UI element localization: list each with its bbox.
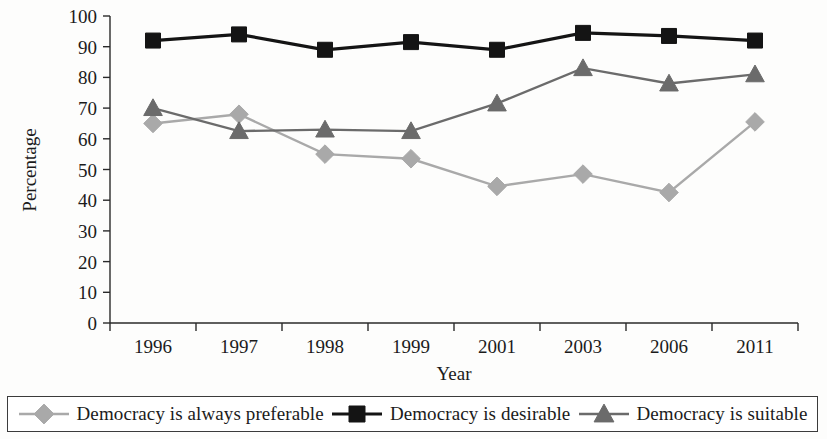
x-tick-label: 2003 (564, 336, 602, 357)
x-tick-label: 1996 (134, 336, 172, 357)
x-axis-tick-labels: 19961997199819992001200320062011 (134, 336, 774, 357)
line-chart-figure: 0102030405060708090100 19961997199819992… (0, 0, 827, 439)
y-axis-tick-marks (103, 16, 110, 323)
y-tick-label: 50 (78, 160, 97, 181)
series-1 (144, 105, 765, 202)
data-point-marker (230, 105, 249, 124)
data-point-marker (574, 59, 593, 76)
series-2 (146, 25, 763, 57)
x-axis-tick-marks (110, 323, 798, 331)
legend-entry-3[interactable]: Democracy is suitable (578, 403, 808, 425)
data-point-marker (144, 99, 163, 116)
x-tick-label: 1998 (306, 336, 344, 357)
data-series-group (144, 25, 765, 201)
legend-triangle-icon (578, 404, 630, 424)
legend-label: Democracy is suitable (637, 403, 808, 425)
y-axis-title: Percentage (19, 128, 40, 211)
data-point-marker (746, 65, 765, 82)
data-point-marker (748, 33, 763, 48)
y-tick-label: 60 (78, 129, 97, 150)
y-tick-label: 10 (78, 282, 97, 303)
data-point-marker (144, 114, 163, 133)
data-point-marker (488, 177, 507, 196)
data-point-marker (232, 27, 247, 42)
x-tick-label: 2001 (478, 336, 516, 357)
y-tick-label: 40 (78, 190, 97, 211)
legend-marker (349, 406, 365, 422)
series-line (153, 114, 755, 192)
legend-marker (34, 404, 54, 424)
data-point-marker (490, 42, 505, 57)
data-point-marker (318, 42, 333, 57)
chart-legend: Democracy is always preferableDemocracy … (7, 396, 818, 432)
y-tick-label: 30 (78, 221, 97, 242)
data-point-marker (146, 33, 161, 48)
series-line (153, 68, 755, 131)
data-point-marker (316, 145, 335, 164)
legend-label: Democracy is always preferable (77, 403, 324, 425)
legend-label: Democracy is desirable (390, 403, 571, 425)
x-axis-title: Year (436, 363, 472, 384)
y-tick-label: 90 (78, 37, 97, 58)
y-tick-label: 70 (78, 98, 97, 119)
data-point-marker (576, 25, 591, 40)
legend-entry-2[interactable]: Democracy is desirable (331, 403, 571, 425)
data-point-marker (662, 28, 677, 43)
x-tick-label: 1997 (220, 336, 258, 357)
y-tick-label: 100 (69, 6, 98, 27)
data-point-marker (488, 94, 507, 111)
y-tick-label: 0 (88, 313, 98, 334)
data-point-marker (402, 149, 421, 168)
legend-diamond-icon (18, 404, 70, 424)
plot-area: 0102030405060708090100 19961997199819992… (0, 0, 827, 392)
series-3 (144, 59, 765, 139)
x-tick-label: 2006 (650, 336, 688, 357)
data-point-marker (574, 165, 593, 184)
x-tick-label: 1999 (392, 336, 430, 357)
legend-square-icon (331, 404, 383, 424)
y-axis-tick-labels: 0102030405060708090100 (69, 6, 98, 334)
x-tick-label: 2011 (736, 336, 773, 357)
y-tick-label: 20 (78, 252, 97, 273)
data-point-marker (404, 35, 419, 50)
legend-entry-1[interactable]: Democracy is always preferable (18, 403, 324, 425)
y-tick-label: 80 (78, 67, 97, 88)
